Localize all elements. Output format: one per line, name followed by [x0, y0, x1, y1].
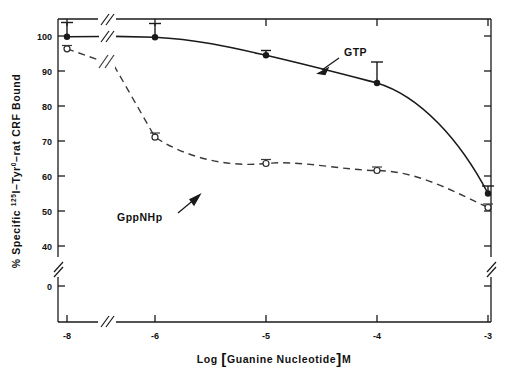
y-axis-ticks-right — [484, 36, 491, 286]
series-gtp-line-seg2 — [114, 36, 488, 193]
gtp-point-n8 — [64, 34, 70, 40]
y-title-tyr: Tyr — [10, 166, 22, 183]
x-title-inner: Guanine Nucleotide — [227, 353, 336, 365]
gtp-point-n5 — [263, 52, 269, 58]
y-tick-label-70: 70 — [42, 137, 52, 147]
y-tick-labels: 100 90 80 70 60 50 40 0 — [37, 32, 52, 292]
gppnhp-point-n5 — [263, 161, 269, 167]
y-tick-label-100: 100 — [37, 32, 52, 42]
y-tick-label-90: 90 — [42, 67, 52, 77]
series-gppnhp-break — [97, 55, 115, 68]
svg-text:% Specific 125I–Tyr0–rat CRF B: % Specific 125I–Tyr0–rat CRF Bound — [10, 74, 22, 269]
series-gtp — [61, 23, 494, 197]
y-tick-label-40: 40 — [42, 242, 52, 252]
gppnhp-point-n4 — [374, 168, 380, 174]
y-tick-label-0: 0 — [47, 282, 52, 292]
x-axis-title: Log [Guanine Nucleotide]M — [197, 350, 352, 367]
series-gppnhp-line-seg1 — [67, 49, 99, 60]
x-axis-ticks-top — [67, 19, 488, 26]
y-title-suffix: rat CRF Bound — [10, 74, 22, 156]
gppnhp-point-n6 — [152, 134, 158, 140]
x-tick-label-n8: -8 — [63, 331, 71, 341]
gtp-arrow-line — [322, 58, 339, 70]
gtp-point-n4 — [374, 80, 380, 86]
annotation-arrows — [178, 58, 339, 213]
x-axis-break-top — [98, 14, 116, 25]
series-label-gtp: GTP — [344, 46, 367, 58]
y-axis-break-left — [53, 257, 64, 277]
y-tick-label-50: 50 — [42, 207, 52, 217]
x-tick-labels: -8 -6 -5 -4 -3 — [63, 331, 492, 341]
series-gppnhp — [62, 46, 493, 211]
plot-frame — [58, 19, 491, 322]
x-axis-ticks-bottom — [67, 315, 488, 322]
series-gppnhp-markers — [64, 46, 491, 211]
gtp-point-n3 — [485, 190, 491, 196]
y-axis-title: % Specific 125I–Tyr0–rat CRF Bound — [10, 74, 22, 269]
x-tick-label-n3: -3 — [484, 331, 492, 341]
x-tick-label-n5: -5 — [262, 331, 270, 341]
gppnhp-point-n8 — [64, 46, 70, 52]
y-axis-break-right — [486, 257, 497, 277]
gppnhp-arrow-head — [190, 195, 200, 206]
series-gppnhp-line-seg2 — [114, 66, 488, 208]
x-axis-break-bottom — [98, 316, 116, 328]
series-gppnhp-errorbars — [62, 46, 493, 208]
svg-text:Log [Guanine Nucleotide]M: Log [Guanine Nucleotide]M — [197, 350, 352, 367]
y-tick-label-80: 80 — [42, 102, 52, 112]
series-label-gppnhp: GppNHp — [117, 211, 163, 223]
x-title-prefix: Log — [197, 353, 222, 365]
x-tick-label-n4: -4 — [373, 331, 381, 341]
x-title-suffix: M — [342, 353, 351, 365]
chart-canvas: 100 90 80 70 60 50 40 0 -8 -6 -5 -4 -3 G… — [0, 0, 521, 379]
y-axis-ticks-left — [58, 36, 65, 286]
y-title-iso-sup: 125 — [10, 194, 17, 207]
figure-panel: 100 90 80 70 60 50 40 0 -8 -6 -5 -4 -3 G… — [0, 0, 521, 379]
gtp-point-n6 — [152, 34, 158, 40]
series-gtp-break — [99, 31, 116, 42]
series-gtp-errorbars — [61, 23, 494, 194]
x-tick-label-n6: -6 — [151, 331, 159, 341]
y-title-prefix: % Specific — [10, 206, 22, 268]
gppnhp-point-n3 — [485, 205, 491, 211]
y-tick-label-60: 60 — [42, 172, 52, 182]
